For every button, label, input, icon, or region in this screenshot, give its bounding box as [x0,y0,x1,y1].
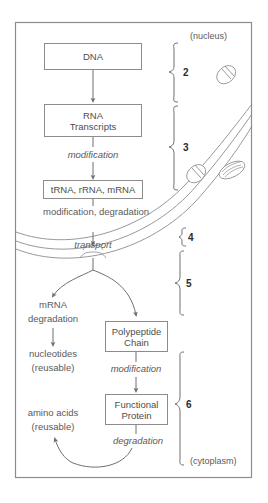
label-degradation-final: degradation [98,435,178,447]
step-number-2: 2 [183,67,189,78]
box-dna: DNA [44,43,142,70]
arrow-branch-to-polypeptide [93,270,136,315]
brace-6-bracket [175,352,184,465]
label-amino-acids-reusable: (reusable) [8,421,98,433]
label-modification-1: modification [43,149,143,161]
arrow-branch-to-mrna-degradation [53,270,93,296]
label-transport: transport [62,239,124,251]
brace-4-bracket [179,228,186,246]
label-nucleotides: nucleotides [10,348,96,360]
label-nucleus: (nucleus) [190,31,227,41]
label-amino-acids: amino acids [8,407,98,419]
step-number-4: 4 [188,232,194,243]
box-trna-rrna-mrna: tRNA, rRNA, mRNA [43,180,143,199]
nuclear-pore-upper [217,66,236,84]
nuclear-pore-lower [187,165,206,183]
label-modification-degradation: modification, degradation [43,206,143,218]
label-mrna: mRNA [13,299,93,311]
label-nucleotides-reusable: (reusable) [10,362,96,374]
label-mrna-degradation: degradation [13,313,93,325]
brace-2-bracket [169,43,178,102]
step-number-5: 5 [186,278,192,289]
box-rna-transcripts: RNA Transcripts [44,104,142,137]
label-modification-3: modification [96,363,176,375]
box-polypeptide-chain: Polypeptide Chain [105,321,168,352]
diagram-canvas: DNA RNA Transcripts tRNA, rRNA, mRNA Pol… [0,0,268,503]
label-cytoplasm: (cytoplasm) [190,456,237,466]
step-number-6: 6 [186,399,192,410]
ribosome-ellipse [216,157,247,182]
box-functional-protein: Functional Protein [105,394,168,425]
brace-5-bracket [175,251,184,315]
step-number-3: 3 [183,142,189,153]
brace-3-bracket [169,106,178,190]
